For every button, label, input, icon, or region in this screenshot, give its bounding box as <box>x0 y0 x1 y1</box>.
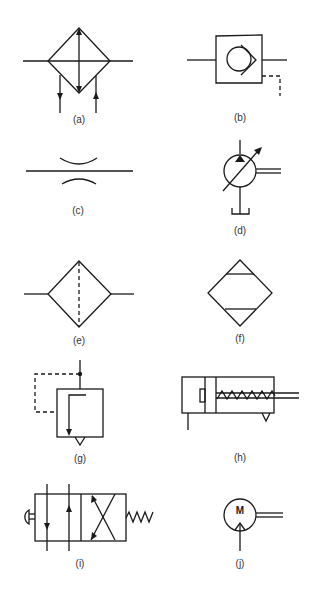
label-c: (c) <box>72 205 84 217</box>
symbol-sheet <box>0 0 316 597</box>
label-h: (h) <box>234 452 246 464</box>
symbol-g-relief-valve <box>35 360 103 445</box>
label-d: (d) <box>234 225 246 237</box>
motor-letter: M <box>236 505 244 517</box>
symbol-b-check-valve <box>187 35 287 96</box>
symbol-j-motor <box>224 499 283 551</box>
symbol-a-heat-exchanger <box>23 28 133 113</box>
symbol-f-lubricator <box>208 260 272 326</box>
label-e: (e) <box>73 335 85 347</box>
label-g: (g) <box>74 453 86 465</box>
label-j: (j) <box>236 558 245 570</box>
symbol-c-restrictor <box>26 158 133 184</box>
symbol-d-variable-pump <box>223 140 281 214</box>
label-a: (a) <box>73 114 85 126</box>
label-f: (f) <box>235 333 244 345</box>
symbol-h-cylinder <box>182 377 299 430</box>
label-b: (b) <box>234 112 246 124</box>
symbol-i-directional-valve <box>25 484 153 551</box>
label-i: (i) <box>76 558 85 570</box>
symbol-e-filter <box>24 261 134 327</box>
